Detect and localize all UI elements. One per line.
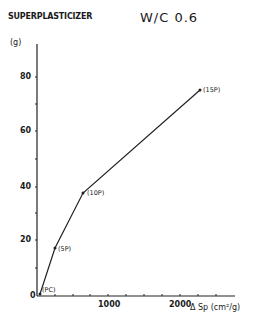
data-points bbox=[39, 89, 202, 296]
x-tick-0: 0 bbox=[30, 291, 36, 300]
point-label-15p: (15P) bbox=[203, 86, 220, 94]
x-tick-1000: 1000 bbox=[98, 300, 120, 309]
point-label-pc: (PC) bbox=[42, 286, 56, 294]
chart-plot bbox=[0, 0, 257, 334]
point-label-10p: (10P) bbox=[87, 189, 104, 197]
y-tick-40: 40 bbox=[20, 182, 31, 191]
y-tick-20: 20 bbox=[20, 235, 31, 244]
data-line bbox=[40, 90, 200, 294]
x-tick-2000: 2000 bbox=[169, 300, 191, 309]
x-axis-label: Δ Sp (cm²/g) bbox=[190, 303, 240, 312]
y-tick-80: 80 bbox=[20, 72, 31, 81]
point-label-5p: (5P) bbox=[58, 245, 71, 253]
y-tick-60: 60 bbox=[20, 126, 31, 135]
